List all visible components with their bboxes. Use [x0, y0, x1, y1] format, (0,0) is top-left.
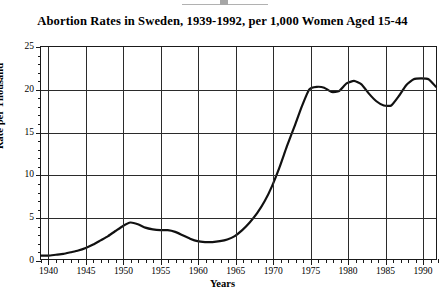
- y-tick-label: 10: [25, 171, 35, 181]
- x-tick-minor: [206, 259, 207, 263]
- x-tick-minor: [93, 259, 94, 263]
- y-tick-minor: [38, 73, 41, 74]
- x-tick-minor: [408, 259, 409, 263]
- x-tick-major: [86, 259, 87, 265]
- x-tick-minor: [243, 259, 244, 263]
- x-tick-minor: [378, 259, 379, 263]
- x-tick-major: [386, 259, 387, 265]
- x-tick-label: 1985: [376, 267, 395, 277]
- x-tick-minor: [108, 259, 109, 263]
- chart-title: Abortion Rates in Sweden, 1939-1992, per…: [0, 14, 445, 29]
- y-tick-minor: [38, 210, 41, 211]
- x-tick-minor: [393, 259, 394, 263]
- x-tick-major: [123, 259, 124, 265]
- x-tick-minor: [71, 259, 72, 263]
- x-tick-minor: [56, 259, 57, 263]
- x-tick-label: 1975: [301, 267, 320, 277]
- scan-artifact-top: [182, 0, 268, 7]
- x-axis-label: Years: [0, 278, 445, 289]
- x-tick-major: [161, 259, 162, 265]
- x-tick-minor: [251, 259, 252, 263]
- x-tick-label: 1950: [114, 267, 133, 277]
- y-tick-minor: [38, 81, 41, 82]
- series-layer: [41, 47, 436, 259]
- plot-area: 1940194519501955196019651970197519801985…: [40, 46, 437, 260]
- x-tick-major: [273, 259, 274, 265]
- x-tick-major: [236, 259, 237, 265]
- y-tick-minor: [38, 193, 41, 194]
- y-tick-minor: [38, 64, 41, 65]
- x-tick-minor: [363, 259, 364, 263]
- x-gridline: [86, 47, 87, 259]
- x-tick-minor: [431, 259, 432, 263]
- y-tick-minor: [38, 107, 41, 108]
- x-gridline: [198, 47, 199, 259]
- x-tick-label: 1960: [189, 267, 208, 277]
- y-tick-minor: [38, 244, 41, 245]
- x-tick-minor: [176, 259, 177, 263]
- x-tick-minor: [296, 259, 297, 263]
- x-tick-major: [348, 259, 349, 265]
- y-tick-minor: [38, 158, 41, 159]
- x-tick-major: [311, 259, 312, 265]
- y-tick-minor: [38, 141, 41, 142]
- y-tick-label: 20: [25, 85, 35, 95]
- x-gridline: [386, 47, 387, 259]
- x-tick-label: 1945: [76, 267, 95, 277]
- x-tick-minor: [41, 259, 42, 263]
- x-tick-major: [423, 259, 424, 265]
- y-gridline: [41, 133, 436, 134]
- x-tick-minor: [303, 259, 304, 263]
- x-tick-minor: [146, 259, 147, 263]
- x-tick-minor: [341, 259, 342, 263]
- x-tick-label: 1970: [264, 267, 283, 277]
- x-tick-major: [198, 259, 199, 265]
- y-gridline: [41, 175, 436, 176]
- x-tick-minor: [101, 259, 102, 263]
- y-tick-label: 5: [29, 213, 34, 223]
- x-tick-minor: [258, 259, 259, 263]
- x-tick-minor: [131, 259, 132, 263]
- x-gridline: [423, 47, 424, 259]
- x-tick-minor: [416, 259, 417, 263]
- x-tick-minor: [191, 259, 192, 263]
- x-gridline: [123, 47, 124, 259]
- y-tick-minor: [38, 124, 41, 125]
- x-tick-minor: [318, 259, 319, 263]
- y-tick-minor: [38, 184, 41, 185]
- x-tick-minor: [183, 259, 184, 263]
- y-tick-label: 0: [29, 256, 34, 266]
- x-gridline: [348, 47, 349, 259]
- x-tick-minor: [401, 259, 402, 263]
- x-tick-minor: [438, 259, 439, 263]
- y-tick-minor: [38, 252, 41, 253]
- y-tick-minor: [38, 56, 41, 57]
- x-tick-minor: [168, 259, 169, 263]
- x-gridline: [311, 47, 312, 259]
- abortion-rate-line: [41, 78, 436, 255]
- x-gridline: [236, 47, 237, 259]
- artifact-blob: [220, 0, 228, 5]
- y-tick-minor: [38, 150, 41, 151]
- x-tick-minor: [288, 259, 289, 263]
- y-tick-major: [36, 47, 41, 48]
- x-tick-minor: [281, 259, 282, 263]
- y-tick-minor: [38, 235, 41, 236]
- x-tick-major: [48, 259, 49, 265]
- x-tick-minor: [63, 259, 64, 263]
- y-tick-major: [36, 261, 41, 262]
- x-tick-label: 1965: [226, 267, 245, 277]
- y-tick-label: 15: [25, 128, 35, 138]
- x-tick-minor: [153, 259, 154, 263]
- x-tick-label: 1955: [151, 267, 170, 277]
- y-tick-minor: [38, 115, 41, 116]
- y-tick-minor: [38, 201, 41, 202]
- y-gridline: [41, 90, 436, 91]
- y-tick-minor: [38, 98, 41, 99]
- x-tick-minor: [333, 259, 334, 263]
- x-tick-minor: [221, 259, 222, 263]
- x-gridline: [48, 47, 49, 259]
- y-tick-minor: [38, 167, 41, 168]
- x-tick-minor: [326, 259, 327, 263]
- y-tick-minor: [38, 227, 41, 228]
